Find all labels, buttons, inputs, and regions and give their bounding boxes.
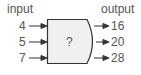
output-value-1: 16 — [111, 20, 124, 32]
box-question-mark: ? — [66, 36, 73, 48]
input-arrows — [29, 24, 47, 61]
output-arrows — [94, 24, 109, 61]
output-value-3: 28 — [111, 52, 124, 64]
output-value-2: 20 — [111, 36, 124, 48]
